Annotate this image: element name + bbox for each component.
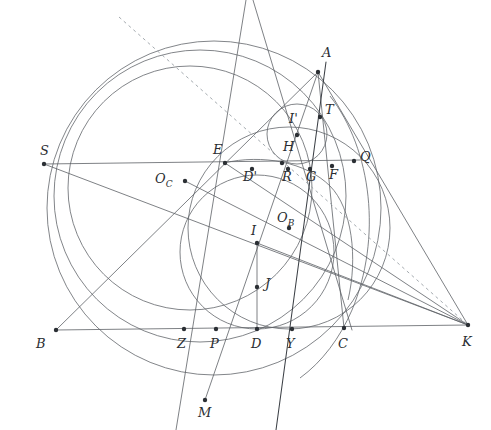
dot-Q (352, 159, 356, 163)
label-F: F (329, 168, 338, 181)
label-Q: Q (360, 150, 371, 163)
dot-T (318, 115, 322, 119)
segment-bk (56, 325, 468, 330)
label-K: K (462, 335, 472, 348)
label-OB-sub: B (288, 218, 295, 228)
dot-OC (183, 179, 187, 183)
label-E: E (213, 143, 223, 156)
label-S: S (40, 144, 49, 157)
label-Y: Y (286, 337, 295, 350)
geometry-figure: A B C K S E Q T I' H D' R G F OC OB I J … (0, 0, 491, 430)
label-R: R (282, 170, 292, 183)
dot-I (255, 241, 259, 245)
label-P: P (210, 337, 219, 350)
dot-Z (182, 327, 186, 331)
label-C: C (338, 337, 348, 350)
geometry-canvas (0, 0, 491, 430)
dot-E (223, 161, 227, 165)
dot-C (342, 326, 346, 330)
segment-ik (257, 243, 468, 325)
segment-ek (225, 163, 468, 325)
dot-S (42, 162, 46, 166)
segment-group (44, 0, 468, 430)
outer-arc-circle (47, 41, 381, 375)
dot-B (54, 328, 58, 332)
label-OC: OC (155, 172, 173, 189)
label-OB: OB (277, 211, 294, 228)
label-I: I (251, 224, 256, 237)
label-B: B (36, 337, 46, 350)
segment-upper-ray (176, 0, 246, 430)
dot-M (203, 398, 207, 402)
dot-J (255, 285, 259, 289)
circumcircle (54, 50, 346, 342)
label-D-prime: D' (243, 170, 257, 183)
label-I-prime: I' (289, 112, 298, 125)
label-OC-sub: C (166, 179, 173, 189)
segment-dashed-to-k (119, 17, 468, 325)
label-D: D (251, 337, 261, 350)
label-OC-base: O (155, 171, 166, 186)
label-A: A (322, 46, 331, 59)
dot-P (214, 327, 218, 331)
dot-I-prime (295, 133, 299, 137)
label-T: T (325, 103, 334, 116)
label-H: H (283, 140, 294, 153)
dot-A (316, 70, 320, 74)
label-G: G (306, 170, 316, 183)
dot-D (255, 327, 259, 331)
label-M: M (198, 406, 211, 419)
dot-Y (290, 327, 294, 331)
circle-group (47, 41, 390, 378)
dot-K (466, 323, 470, 327)
label-J: J (265, 277, 270, 290)
dot-H (280, 161, 284, 165)
label-Z: Z (177, 337, 186, 350)
circle-center-oc (68, 66, 312, 310)
label-OB-base: O (277, 210, 288, 225)
